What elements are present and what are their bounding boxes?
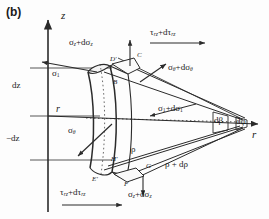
label-rho: ρ: [131, 145, 136, 154]
label-tau-rz-bottom: τrz+dτrz: [60, 188, 86, 198]
label-rho-plus-drho: ρ + dρ: [165, 160, 188, 169]
sigma-z-top-sub2: z: [90, 41, 92, 47]
panel-label: (b): [6, 6, 21, 18]
vertex-label-H-prime: H': [111, 156, 118, 163]
dz-lower-label: −dz: [6, 134, 20, 143]
vertex-label-E-prime: E': [92, 176, 98, 183]
label-sigma-1-right: σ1+dσ1: [158, 104, 183, 114]
label-tau-rz-top: τrz+dτrz: [150, 28, 176, 38]
label-r-radius: r: [56, 104, 60, 114]
axis-r-label: r: [252, 129, 256, 140]
sigma-theta-r-sub2: θ: [190, 66, 193, 72]
tau-rz-top-sub2: rz: [171, 31, 175, 37]
dz-upper-label: dz: [12, 81, 21, 90]
vertex-label-D-prime: D': [110, 56, 117, 63]
label-sigma-theta-right: σθ+dσθ: [168, 63, 193, 73]
vertex-label-B: B: [113, 79, 117, 86]
axis-r: [48, 116, 258, 124]
label-d-phi: dφ: [236, 117, 246, 126]
arrow-sigma-theta-left: [78, 124, 112, 156]
dz-guides: [30, 68, 112, 160]
label-d-beta: dβ: [214, 116, 223, 125]
label-sigma-theta-left: σθ: [68, 126, 76, 136]
sigma-theta-l-sub: θ: [73, 129, 76, 135]
arrow-sigma-1-left: [42, 62, 97, 72]
sigma-1-r-sub2: 1: [180, 107, 183, 113]
label-sigma-1-left: σ1: [52, 69, 60, 79]
vertex-label-C: C: [137, 52, 142, 59]
sigma-z-b-sub2: z: [149, 193, 151, 199]
vertex-label-F: F: [124, 181, 128, 188]
axis-z-label: z: [61, 10, 65, 21]
label-sigma-z-top: σz+dσz: [69, 38, 93, 48]
label-sigma-z-bottom: σz+dσz: [128, 190, 152, 200]
figure-panel-b: (b) z r dz −dz σz+dσz τrz+dτrz σθ+dσθ σ1…: [0, 0, 269, 219]
sigma-1-l-sub: 1: [57, 72, 60, 78]
vertex-label-G: G: [146, 163, 151, 170]
stress-element-diagram: [0, 0, 269, 219]
tau-rz-b-sub2: rz: [81, 191, 85, 197]
